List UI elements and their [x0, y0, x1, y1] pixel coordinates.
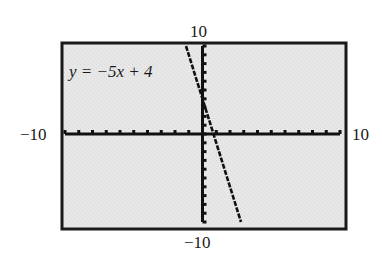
y-min-label: −10	[184, 234, 211, 251]
x-max-label: 10	[352, 126, 369, 143]
x-min-label: −10	[20, 126, 47, 143]
equation-label: y = −5x + 4	[69, 63, 153, 80]
y-max-label: 10	[190, 23, 207, 40]
